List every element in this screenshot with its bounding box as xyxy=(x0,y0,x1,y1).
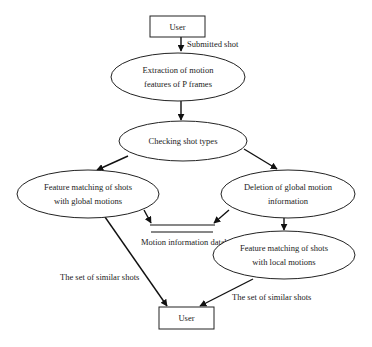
user-bottom-label: User xyxy=(178,313,194,323)
extraction-label-line2: features of P frames xyxy=(144,79,212,89)
global-match-label-line2: with global motions xyxy=(54,196,122,206)
local-match-label-line2: with local motions xyxy=(252,257,315,267)
deletion-label-line2: information xyxy=(268,196,309,206)
edge-global-match-to-user xyxy=(105,217,167,306)
deletion-ellipse xyxy=(221,170,355,218)
node-checking: Checking shot types xyxy=(119,121,247,161)
edge-label-submitted-shot: Submitted shot xyxy=(187,39,239,49)
edge-label-similar-shots-left: The set of similar shots xyxy=(60,272,139,282)
flowchart-canvas: User Submitted shot Extraction of motion… xyxy=(0,0,372,347)
global-match-label-line1: Feature matching of shots xyxy=(44,182,132,192)
node-global-match: Feature matching of shots with global mo… xyxy=(17,170,159,218)
edge-global-match-to-database xyxy=(144,210,151,223)
local-match-label-line1: Feature matching of shots xyxy=(240,243,328,253)
extraction-ellipse xyxy=(111,53,245,101)
checking-label: Checking shot types xyxy=(149,136,218,146)
user-top-label: User xyxy=(169,22,185,32)
edge-deletion-to-database xyxy=(214,210,229,223)
node-database: Motion information databa xyxy=(141,225,233,247)
node-user-top: User xyxy=(150,16,205,37)
node-deletion: Deletion of global motion information xyxy=(221,170,355,218)
node-user-bottom: User xyxy=(159,307,214,329)
edge-label-similar-shots-right: The set of similar shots xyxy=(232,292,311,302)
edge-checking-to-deletion xyxy=(244,149,277,169)
node-local-match: Feature matching of shots with local mot… xyxy=(213,231,355,279)
extraction-label-line1: Extraction of motion xyxy=(143,65,215,75)
local-match-ellipse xyxy=(213,231,355,279)
edge-checking-to-global-match xyxy=(97,156,128,170)
global-match-ellipse xyxy=(17,170,159,218)
deletion-label-line1: Deletion of global motion xyxy=(244,182,333,192)
node-extraction: Extraction of motion features of P frame… xyxy=(111,53,245,101)
